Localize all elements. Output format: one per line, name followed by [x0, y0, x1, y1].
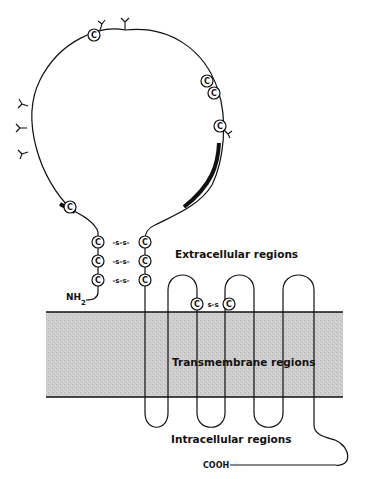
cysteine-icon: C	[92, 255, 104, 267]
cysteine-icon: C	[139, 236, 151, 248]
svg-text:2: 2	[81, 299, 86, 307]
svg-text:C: C	[217, 122, 223, 131]
stalk-cysteines: C C C C C C -s-s- -s-s- -s-s-	[92, 236, 151, 286]
intracellular-label: Intracellular regions	[171, 433, 292, 445]
glycan-icon	[121, 18, 129, 30]
svg-text:C: C	[204, 77, 210, 86]
glycosylation-sites	[16, 18, 232, 159]
svg-text:C: C	[67, 203, 73, 212]
n-terminus-label: NH 2	[66, 292, 86, 307]
svg-text:C: C	[95, 276, 101, 285]
glycan-icon	[224, 130, 232, 138]
receptor-topology-diagram: C C C C C C C C C C C -s-s- -s-s- -s-s- …	[0, 0, 367, 479]
glycan-icon	[98, 20, 105, 30]
cysteine-icon: C	[92, 274, 104, 286]
glycan-icon	[18, 150, 28, 159]
svg-text:C: C	[91, 31, 97, 40]
cysteine-icon: C	[223, 298, 235, 310]
cysteine-icon: C	[92, 236, 104, 248]
loop-cysteines: C C C C C	[64, 29, 226, 213]
cysteine-icon: C	[88, 29, 100, 41]
svg-text:C: C	[142, 238, 148, 247]
cysteine-icon: C	[208, 87, 220, 99]
svg-text:C: C	[95, 257, 101, 266]
cysteine-icon: C	[139, 255, 151, 267]
cysteine-icon: C	[214, 120, 226, 132]
c-terminus-label: COOH	[203, 461, 229, 470]
svg-text:C: C	[211, 89, 217, 98]
svg-text:C: C	[95, 238, 101, 247]
transmembrane-label: Transmembrane regions	[172, 356, 315, 368]
disulfide-bond: -s-s-	[112, 239, 129, 247]
svg-text:C: C	[226, 300, 232, 309]
glycan-icon	[18, 99, 28, 108]
svg-text:C: C	[142, 276, 148, 285]
disulfide-bond: -s-s-	[112, 277, 129, 285]
svg-text:NH: NH	[66, 292, 81, 302]
cysteine-icon: C	[191, 298, 203, 310]
membrane-band	[46, 312, 343, 397]
disulfide-bond: -s-s-	[112, 258, 129, 266]
cysteine-icon: C	[201, 75, 213, 87]
disulfide-bond: s-s	[207, 301, 218, 309]
svg-text:C: C	[142, 257, 148, 266]
glycan-icon	[16, 124, 27, 132]
tm-disulfide: C C s-s	[191, 298, 235, 310]
extracellular-loop	[32, 29, 224, 240]
cysteine-icon: C	[139, 274, 151, 286]
extracellular-label: Extracellular regions	[175, 248, 298, 260]
cysteine-icon: C	[64, 201, 76, 213]
svg-text:C: C	[194, 300, 200, 309]
